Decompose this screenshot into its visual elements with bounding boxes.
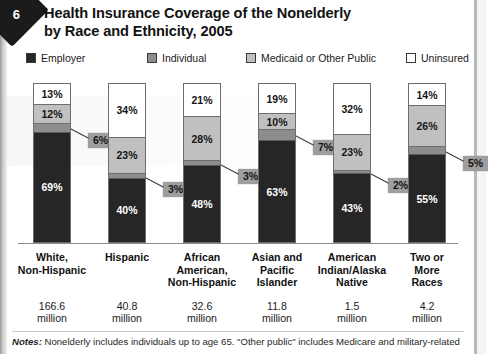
callout-leader-line: [220, 164, 240, 175]
category-label-line: Races: [381, 276, 473, 289]
bar-segment-value-label: 10%: [266, 116, 287, 128]
bar-segment-value-label: 21%: [191, 94, 212, 106]
population-label: 4.2million: [381, 300, 473, 325]
x-axis-line: [18, 243, 458, 244]
bar-segment-value-label: 26%: [416, 120, 437, 132]
bar-segment-medicaid-or-other-public[interactable]: 12%: [34, 105, 70, 124]
callout-leader-line: [295, 135, 315, 146]
chart-notes: Notes: Nonelderly includes individuals u…: [12, 336, 472, 348]
bar-segment-value-label: 12%: [41, 108, 62, 120]
notes-divider: [12, 331, 464, 332]
bar-segment-value-label: 23%: [341, 146, 362, 158]
bar-segment-value-label: 34%: [116, 104, 137, 116]
bar-segment-uninsured[interactable]: 13%: [34, 84, 70, 105]
bar-segment-uninsured[interactable]: 19%: [259, 84, 295, 114]
bar-segment-employer[interactable]: 63%: [259, 141, 295, 242]
bar-segment-individual[interactable]: 5%: [409, 147, 445, 155]
bar-segment-uninsured[interactable]: 34%: [109, 84, 145, 138]
notes-text: Nonelderly includes individuals up to ag…: [42, 336, 460, 347]
bar-segment-value-label: 28%: [191, 133, 212, 145]
bar-segment-value-label: 69%: [41, 181, 62, 193]
category-label: Two orMoreRaces: [381, 251, 473, 289]
bar-segment-value-label: 43%: [341, 202, 362, 214]
population-label-line: 4.2: [381, 300, 473, 312]
bar-segment-value-label: 14%: [416, 89, 437, 101]
category-label-line: Two or: [381, 251, 473, 264]
bar-segment-value-label: 40%: [116, 204, 137, 216]
bar-segment-value-label: 63%: [266, 186, 287, 198]
bar-segment-callout-individual: 5%: [463, 156, 488, 171]
bar-segment-medicaid-or-other-public[interactable]: 10%: [259, 114, 295, 130]
callout-leader-line: [370, 173, 390, 184]
category-label-line: Non-Hispanic: [6, 264, 98, 277]
bar-segment-value-label: 55%: [416, 193, 437, 205]
bar-segment-employer[interactable]: 48%: [184, 166, 220, 242]
bar-segment-employer[interactable]: 69%: [34, 133, 70, 242]
bar-segment-employer[interactable]: 40%: [109, 179, 145, 242]
bar-stack[interactable]: 19%10%7%63%: [258, 83, 296, 243]
bar-segment-medicaid-or-other-public[interactable]: 28%: [184, 117, 220, 161]
bar-segment-uninsured[interactable]: 14%: [409, 84, 445, 106]
bar-segment-value-label: 23%: [116, 149, 137, 161]
bar-segment-individual[interactable]: 7%: [259, 130, 295, 141]
bar-segment-value-label: 48%: [191, 198, 212, 210]
bar-stack[interactable]: 32%23%2%43%: [333, 83, 371, 243]
bar-segment-employer[interactable]: 55%: [409, 155, 445, 242]
bar-stack[interactable]: 21%28%3%48%: [183, 83, 221, 243]
bar-stack[interactable]: 13%12%6%69%: [33, 83, 71, 243]
bar-segment-value-label: 19%: [266, 93, 287, 105]
category-label-line: More: [381, 264, 473, 277]
callout-leader-line: [70, 128, 90, 139]
bar-segment-uninsured[interactable]: 21%: [184, 84, 220, 117]
bar-segment-individual[interactable]: 6%: [34, 124, 70, 133]
bar-segment-value-label: 13%: [41, 88, 62, 100]
bar-segment-medicaid-or-other-public[interactable]: 26%: [409, 106, 445, 147]
bar-segment-uninsured[interactable]: 32%: [334, 84, 370, 135]
population-label-line: million: [381, 312, 473, 324]
bar-stack[interactable]: 14%26%5%55%: [408, 83, 446, 243]
bar-segment-medicaid-or-other-public[interactable]: 23%: [334, 135, 370, 171]
callout-leader-line: [445, 151, 465, 162]
bar-stack[interactable]: 34%23%3%40%: [108, 83, 146, 243]
callout-leader-line: [145, 177, 165, 188]
notes-lead: Notes:: [12, 336, 42, 347]
bar-segment-employer[interactable]: 43%: [334, 174, 370, 242]
bar-segment-medicaid-or-other-public[interactable]: 23%: [109, 138, 145, 174]
bar-segment-value-label: 32%: [341, 103, 362, 115]
